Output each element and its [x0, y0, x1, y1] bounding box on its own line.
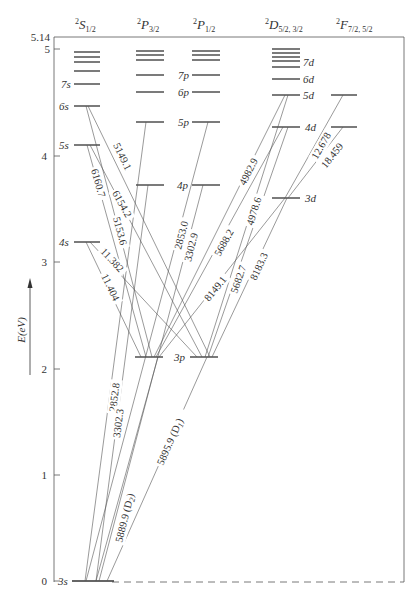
- label-8183.3: 8183.3: [248, 251, 270, 282]
- y-axis-title-group: E(eV): [15, 278, 33, 375]
- label-6160.7-group: 6160.7: [88, 166, 109, 202]
- column-headers: 2S1/2 2P3/2 2P1/2 2D5/2, 3/2 2F7/2, 5/2: [75, 17, 372, 34]
- header-2P-1/2: 2P1/2: [193, 17, 215, 34]
- label-5149.1: 5149.1: [111, 141, 134, 172]
- y-axis-title: E(eV): [15, 317, 28, 344]
- tick-label-2: 2: [42, 363, 48, 375]
- label-7p: 7p: [178, 69, 190, 81]
- label-3d: 3d: [304, 192, 317, 204]
- label-5149.1-group: 5149.1: [109, 139, 135, 175]
- label-6p: 6p: [178, 86, 190, 98]
- line-5895.9-D1: [107, 357, 207, 581]
- label-4d: 4d: [305, 121, 317, 133]
- tick-label-0: 0: [42, 575, 48, 587]
- header-2P-3/2: 2P3/2: [137, 17, 159, 34]
- levels-P3/2: [135, 51, 164, 357]
- header-2F-7/2-5/2: 2F7/2, 5/2: [336, 17, 372, 34]
- levels-F: [331, 95, 357, 127]
- levels-P1/2: 3p 4p 5p 6p 7p: [173, 51, 220, 363]
- tick-label-4: 4: [42, 150, 48, 162]
- label-5682.7: 5682.7: [228, 264, 248, 295]
- label-4982.9: 4982.9: [237, 156, 260, 187]
- tick-label-5-14: 5.14: [31, 31, 51, 43]
- label-5d: 5d: [303, 89, 315, 101]
- header-2S-1/2: 2S1/2: [75, 17, 96, 34]
- sodium-energy-level-diagram: 0 1 2 3 4 5 5.14 E(eV) 2S1/2 2P3/2 2P1/2…: [0, 0, 420, 594]
- label-6d: 6d: [303, 73, 315, 85]
- tick-label-1: 1: [42, 469, 48, 481]
- header-2D-5/2-3/2: 2D5/2, 3/2: [265, 17, 303, 34]
- label-4p: 4p: [177, 179, 189, 191]
- label-5895.9-D1-group: 5895.9 (D1): [154, 408, 191, 470]
- label-5895.9-D1: 5895.9 (D1): [155, 416, 187, 468]
- line-4982.9: [154, 95, 285, 357]
- label-3s: 3s: [57, 575, 68, 587]
- tick-label-3: 3: [42, 256, 48, 268]
- label-3p: 3p: [173, 351, 186, 363]
- transition-labels: 5149.1 6160.7 6154.2 5153.6 11.382 11.40…: [88, 128, 349, 546]
- levels-D: 3d 4d 5d 6d 7d: [272, 49, 317, 204]
- label-7s: 7s: [61, 78, 71, 90]
- label-11.404: 11.404: [99, 272, 122, 303]
- label-5889.9-D2-group: 5889.9 (D2): [113, 483, 141, 546]
- label-5p: 5p: [178, 116, 190, 128]
- label-6s: 6s: [59, 100, 69, 112]
- label-7d: 7d: [303, 56, 315, 68]
- label-5688.2-group: 5688.2: [211, 225, 238, 261]
- label-5688.2: 5688.2: [212, 227, 236, 258]
- label-5s: 5s: [59, 139, 69, 151]
- label-8183.3-group: 8183.3: [247, 248, 272, 284]
- label-11.382: 11.382: [99, 246, 126, 274]
- y-axis-arrow-icon: [28, 278, 33, 288]
- label-4978.6-group: 4978.6: [244, 193, 265, 229]
- tick-label-5: 5: [45, 43, 51, 55]
- label-4s: 4s: [59, 236, 69, 248]
- y-ticks: 0 1 2 3 4 5 5.14: [31, 31, 60, 587]
